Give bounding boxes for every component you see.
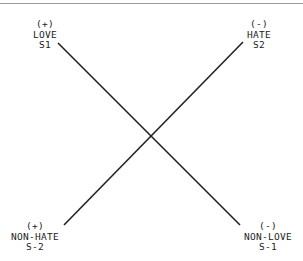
- sign: (-): [247, 19, 271, 30]
- sign: (-): [244, 221, 292, 232]
- code: S-1: [244, 242, 292, 253]
- sign: (+): [33, 19, 57, 30]
- corner-label-love: (+) LOVE S1: [33, 19, 57, 51]
- code: S2: [247, 40, 271, 51]
- corner-label-non-love: (-) NON-LOVE S-1: [244, 221, 292, 253]
- nonhate-to-hate-line: [64, 42, 243, 225]
- love-to-nonlove-line: [58, 43, 240, 225]
- corner-label-non-hate: (+) NON-HATE S-2: [11, 221, 59, 253]
- sign: (+): [11, 221, 59, 232]
- corner-label-hate: (-) HATE S2: [247, 19, 271, 51]
- code: S1: [33, 40, 57, 51]
- code: S-2: [11, 242, 59, 253]
